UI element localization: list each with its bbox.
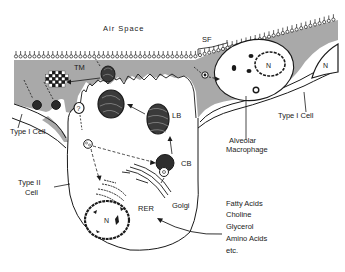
sf-molecule-head — [217, 49, 220, 52]
sf-molecule-head — [281, 31, 284, 34]
tm-lattice-cell — [59, 84, 62, 87]
sf-molecule-head — [327, 19, 330, 22]
tm-lattice-cell — [52, 71, 55, 74]
sf-molecule-head — [83, 55, 86, 58]
tubular-myelin — [46, 71, 68, 87]
type2-leader — [54, 184, 70, 187]
sf-label: SF — [202, 35, 212, 44]
sf-molecule-head — [198, 53, 201, 56]
sf-molecule-head — [120, 55, 123, 58]
tm-lattice-cell — [52, 74, 55, 77]
tm-lattice-cell — [55, 84, 58, 87]
rer-label: RER — [138, 204, 154, 213]
macrophage-granule — [247, 69, 252, 73]
arrow-precursors-in — [160, 220, 222, 234]
cb-label: CB — [181, 159, 191, 168]
arrowhead — [168, 136, 173, 141]
sf-molecule-head — [313, 23, 316, 26]
sf-molecule-head — [42, 55, 45, 58]
sf-molecule-head — [116, 55, 119, 58]
arrowhead — [97, 176, 102, 182]
sf-molecule-head — [134, 55, 137, 58]
sf-molecule-head — [56, 55, 59, 58]
lb-label: LB — [172, 111, 181, 120]
sf-molecule-head — [65, 55, 68, 58]
type2-nucleus-label: N — [104, 217, 109, 224]
type1-left-label: Type I Cell — [10, 127, 46, 136]
sf-molecule-head — [33, 55, 36, 58]
sf-molecule-head — [74, 55, 77, 58]
reuptake-granule — [52, 101, 61, 110]
sf-molecule-head — [208, 51, 211, 54]
sf-vesicle-core — [204, 74, 207, 77]
sf-molecule-head — [277, 33, 280, 36]
tm-lattice-cell — [62, 71, 65, 74]
arrowhead — [150, 160, 156, 165]
precursor-item: etc. — [226, 246, 238, 255]
type2-cell-outline — [67, 118, 198, 250]
tm-lattice-cell — [52, 81, 55, 84]
sf-molecule-head — [102, 55, 105, 58]
tm-lattice-cell — [55, 71, 58, 74]
sf-molecule-head — [88, 55, 91, 58]
question-label: ? — [77, 105, 81, 112]
tm-lattice-cell — [65, 74, 68, 77]
tm-lattice-cell — [46, 74, 49, 77]
type2-label-line2: Cell — [25, 188, 38, 197]
sf-molecule-head — [166, 55, 169, 58]
tm-lattice-cell — [62, 81, 65, 84]
sf-molecule-head — [47, 55, 50, 58]
macrophage-granule — [253, 87, 259, 93]
sf-molecule-head — [37, 55, 40, 58]
tm-lattice-cell — [49, 77, 52, 80]
sf-molecule-head — [152, 55, 155, 58]
sf-molecule-head — [171, 55, 174, 58]
tm-lattice-cell — [46, 77, 49, 80]
tm-lattice-cell — [55, 74, 58, 77]
tm-lattice-cell — [62, 84, 65, 87]
precursor-item: Choline — [226, 210, 251, 219]
arrow-mvb-to-cb — [93, 146, 153, 162]
tm-lattice-cell — [62, 77, 65, 80]
tm-lattice-cell — [55, 77, 58, 80]
macrophage-label-line2: Macrophage — [226, 145, 268, 154]
arrow-question-down — [80, 115, 82, 130]
tm-lattice-cell — [49, 81, 52, 84]
sf-molecule-head — [175, 55, 178, 58]
sf-molecule-head — [332, 18, 335, 21]
sf-molecule-head — [148, 55, 151, 58]
sf-molecule-head — [143, 55, 146, 58]
arrow-lb-to-secretion — [130, 106, 145, 114]
air-space-label: Air Space — [103, 24, 145, 33]
sf-molecule-head — [267, 35, 270, 38]
sf-molecule-head — [93, 55, 96, 58]
sf-molecule-head — [295, 28, 298, 31]
sf-molecule-head — [14, 55, 17, 58]
sf-molecule-head — [221, 47, 224, 50]
golgi-label: Golgi — [172, 201, 190, 210]
tm-lattice-cell — [46, 81, 49, 84]
sf-molecule-head — [28, 55, 31, 58]
sf-molecule-head — [125, 55, 128, 58]
sf-molecule-head — [157, 55, 160, 58]
tm-lattice-cell — [62, 74, 65, 77]
sf-molecule-head — [290, 29, 293, 32]
macrophage-granule — [249, 54, 254, 58]
macrophage-nucleus-label: N — [266, 62, 271, 69]
sf-molecule-head — [272, 34, 275, 37]
sf-molecule-head — [70, 55, 73, 58]
sf-molecule-head — [318, 22, 321, 25]
tm-lattice-cell — [59, 77, 62, 80]
alveolar-diagram: N N ? LB CB — [0, 0, 345, 272]
sf-molecule-head — [139, 55, 142, 58]
tm-lattice-cell — [59, 81, 62, 84]
precursor-list: Fatty Acids Choline Glycerol Amino Acids… — [226, 199, 268, 255]
tm-lattice-cell — [65, 77, 68, 80]
sf-molecule-head — [323, 20, 326, 23]
macrophage-granule — [232, 65, 236, 71]
composite-body — [156, 155, 174, 177]
sf-molecule-head — [189, 55, 192, 58]
macrophage-label-line1: Alveolar — [229, 136, 257, 145]
sf-molecule-head — [19, 55, 22, 58]
sf-molecule-head — [79, 55, 82, 58]
